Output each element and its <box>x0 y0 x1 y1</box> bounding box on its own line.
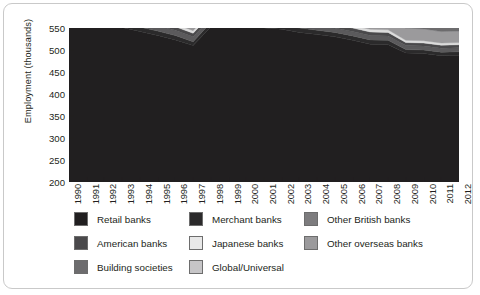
y-axis-tick: 500 <box>49 45 65 56</box>
x-axis-tick: 2006 <box>357 184 367 204</box>
legend-label: Building societies <box>97 262 173 273</box>
legend-column: Other British banksOther overseas banks <box>304 207 423 255</box>
legend-item-japanese-banks[interactable]: Japanese banks <box>189 231 284 255</box>
legend-label: Merchant banks <box>212 214 282 225</box>
y-axis-tick: 400 <box>49 89 65 100</box>
legend-item-american-banks[interactable]: American banks <box>74 231 173 255</box>
legend-item-global-universal[interactable]: Global/Universal <box>189 255 284 279</box>
y-axis-tick: 350 <box>49 111 65 122</box>
legend-swatch <box>304 212 318 226</box>
area-band-retail-banks <box>69 28 459 182</box>
legend-item-other-british-banks[interactable]: Other British banks <box>304 207 423 231</box>
x-axis-tick: 1990 <box>73 184 83 204</box>
x-axis-tick: 1999 <box>233 184 243 204</box>
legend-column: Retail banksAmerican banksBuilding socie… <box>74 207 173 279</box>
legend-swatch <box>189 236 203 250</box>
area-series-group <box>69 28 459 182</box>
stacked-area-chart: Employment (thousands) 20025030035040045… <box>4 4 474 200</box>
x-axis-tick: 2011 <box>445 184 455 204</box>
x-axis-tick: 2005 <box>339 184 349 204</box>
legend-item-retail-banks[interactable]: Retail banks <box>74 207 173 231</box>
legend-label: American banks <box>97 238 167 249</box>
y-axis-tick: 300 <box>49 133 65 144</box>
x-axis-tick: 1994 <box>144 184 154 204</box>
legend-swatch <box>189 260 203 274</box>
x-axis-tick: 2012 <box>463 184 473 204</box>
y-axis-tick: 550 <box>49 23 65 34</box>
x-axis-tick: 2007 <box>374 184 384 204</box>
legend-swatch <box>304 236 318 250</box>
legend-column: Merchant banksJapanese banksGlobal/Unive… <box>189 207 284 279</box>
legend-swatch <box>74 212 88 226</box>
x-axis-tick: 1991 <box>91 184 101 204</box>
legend-label: Japanese banks <box>212 238 283 249</box>
x-axis-tick: 1995 <box>162 184 172 204</box>
legend-swatch <box>74 236 88 250</box>
x-axis-tick: 1997 <box>197 184 207 204</box>
chart-frame: Employment (thousands) 20025030035040045… <box>3 3 473 289</box>
legend-label: Retail banks <box>97 214 151 225</box>
x-axis-tick: 1992 <box>108 184 118 204</box>
legend-swatch <box>189 212 203 226</box>
legend-label: Other British banks <box>327 214 410 225</box>
legend-item-merchant-banks[interactable]: Merchant banks <box>189 207 284 231</box>
x-axis-tick: 2001 <box>268 184 278 204</box>
legend-swatch <box>74 260 88 274</box>
legend-label: Other overseas banks <box>327 238 423 249</box>
chart-legend: Retail banksAmerican banksBuilding socie… <box>4 207 474 287</box>
y-axis-tick: 200 <box>49 177 65 188</box>
legend-label: Global/Universal <box>212 262 284 273</box>
x-axis-tick: 2000 <box>250 184 260 204</box>
plot-area <box>69 28 459 182</box>
x-axis-tick: 2010 <box>428 184 438 204</box>
x-axis-tick: 2002 <box>286 184 296 204</box>
x-axis-tick: 1998 <box>215 184 225 204</box>
x-axis-tick: 1993 <box>126 184 136 204</box>
legend-item-building-societies[interactable]: Building societies <box>74 255 173 279</box>
x-axis-tick: 2003 <box>303 184 313 204</box>
x-axis-tick: 1996 <box>179 184 189 204</box>
y-axis-tick: 250 <box>49 155 65 166</box>
y-axis-tick-labels: 200250300350400450500550 <box>32 28 65 182</box>
y-axis-tick: 450 <box>49 67 65 78</box>
x-axis-tick: 2004 <box>321 184 331 204</box>
x-axis-tick: 2009 <box>410 184 420 204</box>
x-axis-tick: 2008 <box>392 184 402 204</box>
legend-item-other-overseas-banks[interactable]: Other overseas banks <box>304 231 423 255</box>
